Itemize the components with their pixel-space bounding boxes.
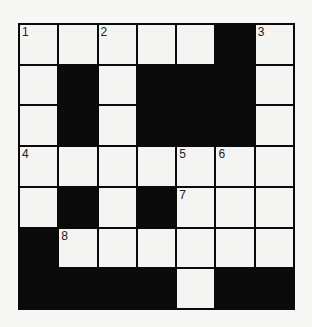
black-cell [59, 106, 96, 145]
crossword-cell[interactable]: 2 [99, 25, 136, 64]
clue-number: 2 [101, 26, 108, 38]
crossword-grid: 12345678 [18, 23, 295, 310]
crossword-cell[interactable] [256, 229, 293, 268]
clue-number: 6 [218, 148, 225, 160]
black-cell [216, 66, 253, 105]
crossword-cell[interactable] [138, 25, 175, 64]
clue-number: 1 [22, 26, 29, 38]
crossword-cell[interactable] [216, 188, 253, 227]
crossword-cell[interactable] [59, 147, 96, 186]
crossword-cell[interactable] [256, 188, 293, 227]
crossword-cell[interactable]: 1 [20, 25, 57, 64]
black-cell [177, 106, 214, 145]
crossword-cell[interactable] [20, 188, 57, 227]
black-cell [216, 25, 253, 64]
crossword-cell[interactable] [99, 106, 136, 145]
black-cell [138, 66, 175, 105]
black-cell [99, 269, 136, 308]
black-cell [216, 106, 253, 145]
black-cell [138, 269, 175, 308]
black-cell [59, 188, 96, 227]
crossword-cell[interactable] [59, 25, 96, 64]
crossword-cell[interactable] [216, 229, 253, 268]
black-cell [20, 229, 57, 268]
crossword-cell[interactable] [138, 147, 175, 186]
crossword-cell[interactable]: 6 [216, 147, 253, 186]
black-cell [20, 269, 57, 308]
clue-number: 3 [258, 26, 265, 38]
black-cell [59, 66, 96, 105]
crossword-cell[interactable] [20, 106, 57, 145]
clue-number: 8 [61, 230, 68, 242]
clue-number: 5 [179, 148, 186, 160]
crossword-cell[interactable] [256, 66, 293, 105]
crossword-cell[interactable]: 7 [177, 188, 214, 227]
crossword-cell[interactable] [256, 147, 293, 186]
crossword-cell[interactable] [177, 229, 214, 268]
black-cell [216, 269, 253, 308]
crossword-cell[interactable] [99, 188, 136, 227]
crossword-cell[interactable] [99, 229, 136, 268]
black-cell [138, 188, 175, 227]
crossword-cell[interactable] [20, 66, 57, 105]
crossword-cell[interactable]: 5 [177, 147, 214, 186]
crossword-cell[interactable] [99, 66, 136, 105]
clue-number: 4 [22, 148, 29, 160]
black-cell [256, 269, 293, 308]
crossword-cell[interactable] [138, 229, 175, 268]
crossword-cell[interactable] [177, 25, 214, 64]
crossword-cell[interactable]: 8 [59, 229, 96, 268]
black-cell [177, 66, 214, 105]
crossword-cell[interactable]: 4 [20, 147, 57, 186]
crossword-cell[interactable] [177, 269, 214, 308]
crossword-cell[interactable] [256, 106, 293, 145]
black-cell [138, 106, 175, 145]
clue-number: 7 [179, 189, 186, 201]
crossword-cell[interactable] [99, 147, 136, 186]
black-cell [59, 269, 96, 308]
crossword-cell[interactable]: 3 [256, 25, 293, 64]
